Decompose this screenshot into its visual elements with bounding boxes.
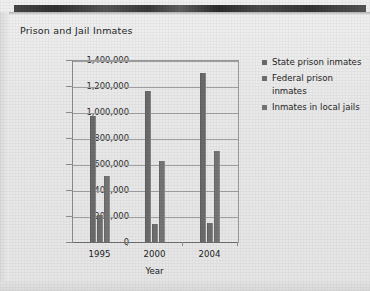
x-axis-tick-mark xyxy=(182,242,183,246)
x-axis-tick-label: 1995 xyxy=(89,249,111,259)
bar-group xyxy=(145,60,165,242)
chart-title: Prison and Jail Inmates xyxy=(20,25,133,36)
scanned-page: Prison and Jail Inmates 0200,000400,0006… xyxy=(0,0,370,291)
legend-item[interactable]: State prison inmates xyxy=(262,56,366,69)
bar[interactable] xyxy=(200,73,206,242)
axis-baseline xyxy=(73,242,238,243)
x-axis-tick-mark xyxy=(127,242,128,246)
bar[interactable] xyxy=(207,223,213,242)
legend-label: Federal prison inmates xyxy=(272,72,366,98)
bar[interactable] xyxy=(214,151,220,242)
bar-chart: Prison and Jail Inmates 0200,000400,0006… xyxy=(0,12,370,291)
legend-item[interactable]: Inmates in local jails xyxy=(262,101,366,114)
bar-groups xyxy=(72,60,237,242)
x-axis-tick-mark xyxy=(237,242,238,246)
bar[interactable] xyxy=(97,215,103,242)
bar[interactable] xyxy=(152,224,158,242)
x-axis-tick-label: 2000 xyxy=(144,249,166,259)
legend-item[interactable]: Federal prison inmates xyxy=(262,72,366,98)
bar-group xyxy=(90,60,110,242)
legend-swatch-icon xyxy=(262,105,267,110)
bar[interactable] xyxy=(104,176,110,242)
chart-legend: State prison inmatesFederal prison inmat… xyxy=(262,56,366,117)
scan-artifact-band xyxy=(14,5,366,12)
legend-swatch-icon xyxy=(262,60,267,65)
x-axis-tick-label: 2004 xyxy=(199,249,221,259)
legend-label: Inmates in local jails xyxy=(272,101,360,114)
bar[interactable] xyxy=(90,116,96,242)
bar[interactable] xyxy=(145,91,151,242)
x-axis-title: Year xyxy=(72,266,237,276)
bar-group xyxy=(200,60,220,242)
bar[interactable] xyxy=(159,161,165,242)
legend-swatch-icon xyxy=(262,76,267,81)
legend-label: State prison inmates xyxy=(272,56,361,69)
